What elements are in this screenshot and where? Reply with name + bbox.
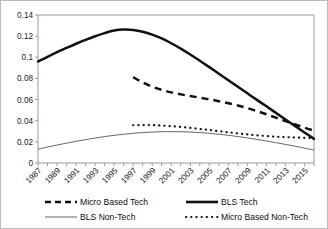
series-line-bls-tech [38, 30, 314, 139]
series-line-micro-based-tech [133, 77, 314, 131]
x-tick-label: 2015 [291, 166, 311, 186]
legend-label-micro-based-tech: Micro Based Tech [80, 197, 148, 207]
chart-legend: Micro Based Tech BLS Tech BLS Non-Tech M… [45, 197, 308, 222]
x-tick-label: 1999 [138, 166, 158, 186]
y-tick-label: 0.12 [17, 32, 33, 41]
x-tick-label: 1995 [100, 166, 120, 186]
x-tick-label: 1997 [119, 166, 139, 186]
series-line-bls-non-tech [38, 132, 314, 150]
x-tick-label: 2001 [157, 166, 177, 186]
x-tick-label: 1989 [43, 166, 63, 186]
x-tick-label: 2013 [272, 166, 292, 186]
y-tick-label: 0.14 [17, 11, 33, 20]
x-tick-label: 1991 [62, 166, 82, 186]
x-axis-labels: 1987198919911993199519971999200120032005… [24, 166, 310, 186]
legend-label-micro-based-non-tech: Micro Based Non-Tech [221, 212, 308, 222]
legend-label-bls-non-tech: BLS Non-Tech [80, 212, 136, 222]
x-tick-label: 2011 [253, 166, 272, 185]
legend-label-bls-tech: BLS Tech [221, 197, 258, 207]
x-tick-label: 2009 [234, 166, 254, 186]
x-tick-label: 2003 [176, 166, 196, 186]
y-tick-label: 0.1 [22, 53, 34, 62]
x-tick-label: 2007 [215, 166, 235, 186]
x-tick-label: 1993 [81, 166, 101, 186]
y-tick-label: 0.04 [17, 117, 33, 126]
y-tick-label: 0.06 [17, 96, 33, 105]
y-tick-label: 0 [28, 159, 33, 168]
y-tick-label: 0.08 [17, 74, 33, 83]
x-tick-label: 1987 [24, 166, 44, 186]
x-tick-label: 2005 [195, 166, 215, 186]
line-chart: 00.020.040.060.080.10.120.14 19871989199… [1, 1, 327, 228]
chart-figure: 00.020.040.060.080.10.120.14 19871989199… [1, 1, 327, 228]
y-axis-labels: 00.020.040.060.080.10.120.14 [17, 11, 33, 168]
y-tick-label: 0.02 [17, 138, 33, 147]
